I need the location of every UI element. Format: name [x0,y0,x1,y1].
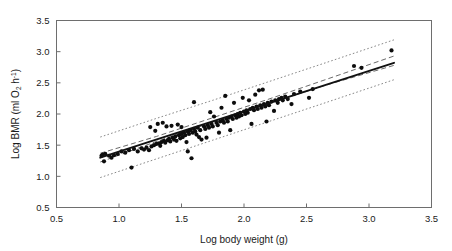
data-point [228,128,232,132]
data-points [99,48,393,169]
data-point [102,159,106,163]
data-point [158,144,162,148]
data-point [217,131,221,135]
y-tick-label: 3.0 [36,46,49,57]
data-point [249,122,253,126]
data-point [168,139,172,143]
y-axis-title-group: Log BMR (ml O2 h-1) [10,69,22,159]
prediction-interval-lower [100,80,394,178]
data-point [161,121,165,125]
data-point [203,127,207,131]
data-point [261,88,265,92]
data-point [212,114,216,118]
x-tick-label: 2.5 [300,213,313,224]
data-point [192,100,196,104]
x-axis-title: Log body weight (g) [200,234,288,245]
x-tick-label: 1.0 [112,213,125,224]
data-point [179,125,183,129]
y-tick-label: 1.0 [36,171,49,182]
data-point [156,122,160,126]
data-point [199,137,203,141]
data-point [169,124,173,128]
data-point [231,117,235,121]
data-point [187,132,191,136]
data-point [176,123,180,127]
data-point [184,140,188,144]
scatter-plot-svg: 0.51.01.52.02.53.03.5 0.51.01.52.02.53.0… [0,0,452,251]
data-point [222,121,226,125]
data-point [359,66,363,70]
data-point [204,136,208,140]
data-point [173,134,177,138]
data-point [123,151,127,155]
data-point [198,128,202,132]
x-tick-label: 2.0 [237,213,250,224]
x-tick-label: 3.0 [362,213,375,224]
data-point [272,109,276,113]
data-point [216,123,220,127]
data-point [189,156,193,160]
x-tick-label: 3.5 [425,213,438,224]
data-point [239,113,243,117]
data-point [207,126,211,130]
data-point [289,102,293,106]
data-point [241,96,245,100]
data-point [186,149,190,153]
data-point [164,124,168,128]
y-tick-label: 3.5 [36,15,49,26]
data-point [147,148,151,152]
chart-figure: 0.51.01.52.02.53.03.5 0.51.01.52.02.53.0… [0,0,452,251]
data-point [264,119,268,123]
prediction-interval-upper [100,40,394,137]
data-point [226,119,230,123]
y-tick-label: 2.5 [36,77,49,88]
x-tick-label: 0.5 [50,213,63,224]
data-point [232,101,236,105]
data-point [219,106,223,110]
data-point [352,64,356,68]
data-point [183,133,187,137]
data-point [148,125,152,129]
data-point [389,48,393,52]
regression-line [100,63,394,158]
y-tick-label: 1.5 [36,140,49,151]
y-tick-label: 0.5 [36,202,49,213]
data-point [153,129,157,133]
data-point [253,93,257,97]
data-point [211,124,215,128]
data-point [223,94,227,98]
data-point [174,139,178,143]
x-tick-label: 1.5 [175,213,188,224]
y-axis-title: Log BMR (ml O2 h-1) [10,69,22,159]
data-point [307,96,311,100]
data-point [257,88,261,92]
data-point [136,149,140,153]
data-point [247,98,251,102]
x-axis-ticks: 0.51.01.52.02.53.03.5 [50,204,438,224]
confidence-interval-upper [100,56,394,153]
y-tick-label: 2.0 [36,108,49,119]
data-point [129,166,133,170]
data-point [208,110,212,114]
